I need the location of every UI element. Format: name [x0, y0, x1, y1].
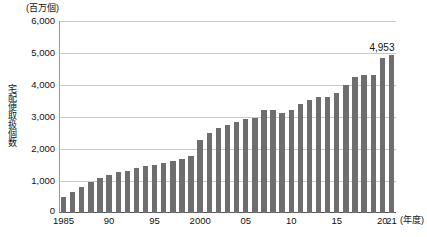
bar [270, 110, 275, 213]
parcel-volume-bar-chart: (百万個) 宅配便取扱個数 1,0002,0003,0004,0005,0006… [0, 0, 427, 237]
bar [289, 110, 294, 213]
bar [143, 166, 148, 213]
bar [261, 110, 266, 213]
y-axis-tick-label: 4,000 [11, 80, 55, 90]
peak-value-label: 4,953 [369, 42, 394, 53]
bar [197, 140, 202, 213]
y-axis-tick-label: 6,000 [11, 16, 55, 26]
bar [389, 55, 394, 213]
x-axis-tick-label: 21 [386, 215, 397, 226]
bar [243, 119, 248, 213]
bar [70, 192, 75, 213]
bar [152, 165, 157, 213]
bar [216, 128, 221, 213]
x-axis-tick-label: 10 [286, 215, 297, 226]
bar [334, 93, 339, 213]
y-axis-tick-labels: 1,0002,0003,0004,0005,0006,000 [8, 21, 55, 213]
y-axis-tick-label: 5,000 [11, 48, 55, 58]
x-axis-tick-label: 2000 [190, 215, 211, 226]
y-axis-tick-label: 2,000 [11, 144, 55, 154]
bar [225, 125, 230, 213]
bar [361, 75, 366, 213]
bar [116, 172, 121, 213]
bar [170, 161, 175, 213]
bar [298, 104, 303, 213]
y-axis-tick-label: 1,000 [11, 176, 55, 186]
bar [316, 97, 321, 213]
bar [161, 163, 166, 213]
bar [380, 58, 385, 213]
bar [371, 75, 376, 213]
bar [188, 156, 193, 213]
x-axis-tick-label: 90 [104, 215, 115, 226]
bar [343, 85, 348, 213]
bar [61, 197, 66, 213]
bar [134, 168, 139, 213]
bar [125, 171, 130, 213]
bar [207, 133, 212, 213]
x-axis-unit-label: (年度) [400, 215, 424, 226]
bar [234, 122, 239, 213]
bar [325, 97, 330, 213]
bar [307, 100, 312, 213]
bar [279, 113, 284, 213]
x-axis-tick-labels: 1985909520000510152021(年度) [0, 215, 427, 237]
bar [79, 187, 84, 213]
x-axis-tick-label: 1985 [53, 215, 74, 226]
x-axis-tick-label: 05 [240, 215, 251, 226]
bar [179, 159, 184, 213]
y-axis-tick-label: 3,000 [11, 112, 55, 122]
y-axis-unit-caption: (百万個) [26, 3, 59, 14]
bar [252, 118, 257, 213]
x-axis-tick-label: 15 [332, 215, 343, 226]
bar [97, 178, 102, 213]
bars-layer: 4,953 [59, 21, 396, 213]
bar [88, 182, 93, 213]
bar [352, 77, 357, 213]
bar [106, 175, 111, 213]
x-axis-tick-label: 95 [149, 215, 160, 226]
